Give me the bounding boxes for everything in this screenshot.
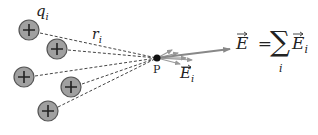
point-p-dot [154, 55, 161, 62]
charge-4 [61, 77, 81, 97]
field-i-label: Ei [180, 64, 194, 84]
charge-label: qi [36, 2, 49, 22]
sum-symbol: ∑ [270, 25, 290, 58]
sum-index: i [279, 62, 283, 75]
charge-2 [47, 39, 67, 59]
sum-term: Ei [292, 33, 308, 56]
charge-5 [38, 101, 58, 121]
point-label: P [153, 63, 160, 76]
charge-1 [19, 20, 39, 40]
distance-label: ri [92, 26, 102, 45]
charge-3 [14, 67, 34, 87]
total-field-arrow [157, 49, 230, 58]
superposition-diagram: qi ri P Ei E = ∑ i Ei [0, 0, 318, 135]
